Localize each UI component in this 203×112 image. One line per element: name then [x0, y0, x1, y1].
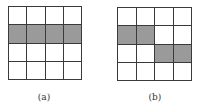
grid-cell	[155, 8, 174, 26]
grid-cell	[137, 8, 156, 26]
grid-cell	[137, 63, 156, 81]
grid-cell	[46, 44, 64, 62]
shaded-cell	[46, 25, 64, 43]
grid-b	[117, 7, 192, 81]
label-b: (b)	[140, 92, 170, 102]
grid-cell	[46, 62, 64, 80]
label-a: (a)	[29, 92, 59, 102]
grid-cell	[9, 44, 27, 62]
grid-cell	[155, 63, 174, 81]
grid-cell	[118, 63, 137, 81]
grid-cell	[27, 62, 45, 80]
grid-cell	[9, 7, 27, 25]
grid-cell	[155, 26, 174, 44]
shaded-cell	[155, 45, 174, 63]
shaded-cell	[9, 25, 27, 43]
grid-cell	[174, 26, 193, 44]
grid-cell	[46, 7, 64, 25]
grid-cell	[137, 45, 156, 63]
grid-cell	[27, 44, 45, 62]
grid-cell	[118, 45, 137, 63]
shaded-cell	[137, 26, 156, 44]
shaded-cell	[64, 25, 82, 43]
grid-cell	[118, 8, 137, 26]
grid-cell	[64, 62, 82, 80]
grid-cell	[9, 62, 27, 80]
grid-cell	[64, 44, 82, 62]
grid-cell	[64, 7, 82, 25]
shaded-cell	[27, 25, 45, 43]
grid-cell	[174, 63, 193, 81]
grid-a	[8, 6, 82, 80]
grid-cell	[174, 8, 193, 26]
shaded-cell	[118, 26, 137, 44]
shaded-cell	[174, 45, 193, 63]
grid-cell	[27, 7, 45, 25]
